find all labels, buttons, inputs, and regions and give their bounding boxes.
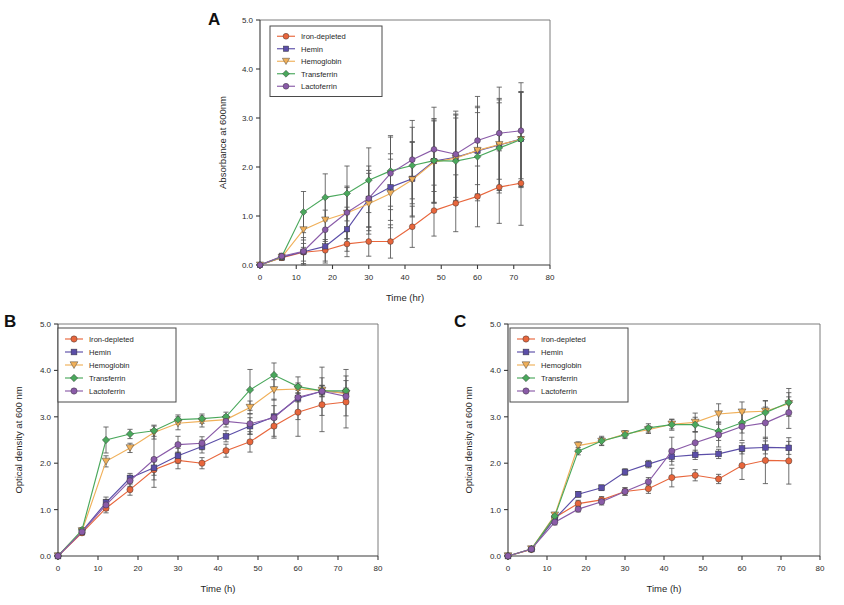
data-point-marker [453, 151, 459, 157]
data-point-marker [323, 244, 328, 249]
x-axis-tick-label: 40 [660, 564, 669, 573]
error-bars [529, 393, 792, 551]
data-point-marker [786, 445, 792, 451]
x-axis-tick-label: 0 [56, 564, 61, 573]
data-point-marker [552, 519, 558, 525]
y-axis-tick-label: 2.0 [242, 163, 254, 172]
data-point-marker [528, 546, 534, 552]
x-axis-tick-label: 0 [258, 273, 263, 282]
y-axis-tick-label: 3.0 [40, 413, 52, 422]
data-point-marker [279, 253, 285, 259]
legend-label: Transferrin [541, 374, 577, 383]
error-bars [279, 141, 523, 261]
data-point-marker [319, 388, 325, 394]
data-point-marker [387, 190, 394, 196]
data-point-marker [523, 336, 529, 342]
data-point-marker [692, 440, 698, 446]
data-point-marker [388, 184, 393, 189]
data-point-marker [246, 404, 254, 411]
y-axis-title: Optical density at 600 nm [463, 386, 474, 493]
data-point-marker [523, 388, 529, 394]
data-point-marker [786, 458, 792, 464]
data-point-marker [223, 448, 229, 454]
data-point-marker [199, 440, 205, 446]
y-axis-tick-label: 3.0 [242, 114, 254, 123]
data-point-marker [453, 200, 459, 206]
x-axis-tick-label: 30 [364, 273, 373, 282]
data-point-marker [763, 445, 769, 451]
data-point-marker [575, 491, 581, 497]
error-bars [529, 437, 792, 551]
legend-label: Iron-depleted [541, 335, 586, 344]
x-axis-tick-label: 30 [174, 564, 183, 573]
x-axis-tick-label: 50 [254, 564, 263, 573]
legend-label: Hemoglobin [541, 361, 582, 370]
data-point-marker [223, 418, 229, 424]
y-axis-tick-label: 0.0 [40, 552, 52, 561]
error-bars [279, 83, 523, 265]
data-point-marker [475, 193, 481, 199]
x-axis-tick-label: 10 [94, 564, 103, 573]
data-point-marker [431, 208, 437, 214]
legend-label: Iron-depleted [89, 335, 134, 344]
legend-label: Transferrin [89, 374, 125, 383]
y-axis-tick-label: 5.0 [242, 16, 254, 25]
data-point-marker [496, 184, 502, 190]
y-axis-tick-label: 3.0 [490, 413, 502, 422]
legend-label: Iron-depleted [301, 32, 346, 41]
legend-label: Lactoferrin [541, 387, 577, 396]
error-bars [529, 441, 792, 551]
data-point-marker [199, 460, 205, 466]
data-point-marker [365, 177, 372, 184]
data-point-marker [518, 180, 524, 186]
x-axis-tick-label: 20 [134, 564, 143, 573]
data-point-marker [409, 224, 415, 230]
x-axis-tick-label: 30 [621, 564, 630, 573]
y-axis-tick-label: 4.0 [40, 366, 52, 375]
x-axis-tick-label: 60 [738, 564, 747, 573]
panel-a-chart: 0.01.02.03.04.05.001020304050607080Time … [208, 6, 598, 301]
data-point-marker [645, 479, 651, 485]
data-point-marker [344, 227, 349, 232]
data-point-marker [295, 394, 301, 400]
data-point-marker [622, 469, 628, 475]
data-point-marker [175, 442, 181, 448]
series-markers-iron-depleted [505, 457, 792, 559]
y-axis-tick-label: 4.0 [490, 366, 502, 375]
data-point-marker [127, 487, 133, 493]
x-axis-tick-label: 70 [509, 273, 518, 282]
data-point-marker [150, 427, 157, 434]
data-point-marker [518, 128, 524, 134]
figure-growth-curves: A 0.01.02.03.04.05.001020304050607080Tim… [0, 0, 844, 605]
data-point-marker [301, 248, 307, 254]
data-point-marker [71, 388, 77, 394]
y-axis-tick-label: 5.0 [40, 320, 52, 329]
x-axis-tick-label: 10 [292, 273, 301, 282]
data-point-marker [762, 457, 768, 463]
data-point-marker [388, 239, 394, 245]
data-point-marker [366, 195, 372, 201]
data-point-marker [71, 349, 77, 355]
x-axis-title: Time (h) [200, 583, 235, 594]
data-point-marker [175, 453, 181, 459]
data-point-marker [102, 458, 110, 465]
x-axis-tick-label: 40 [214, 564, 223, 573]
data-point-marker [739, 423, 745, 429]
panel-b: B 0.01.02.03.04.05.001020304050607080Tim… [2, 310, 422, 600]
x-axis-tick-label: 80 [546, 273, 555, 282]
data-point-marker [692, 452, 698, 458]
data-point-marker [55, 553, 61, 559]
data-point-marker [409, 162, 416, 169]
legend-label: Hemin [301, 45, 323, 54]
chart-legend: Iron-depletedHeminHemoglobinTransferrinL… [58, 328, 176, 402]
data-point-marker [409, 157, 415, 163]
data-point-marker [344, 190, 351, 197]
data-point-marker [247, 439, 253, 445]
legend-label: Lactoferrin [301, 82, 337, 91]
data-point-marker [103, 502, 109, 508]
error-bars [529, 388, 792, 550]
error-bars [279, 92, 523, 264]
data-point-marker [599, 485, 605, 491]
data-point-marker [151, 456, 157, 462]
panel-a-letter: A [208, 10, 220, 30]
